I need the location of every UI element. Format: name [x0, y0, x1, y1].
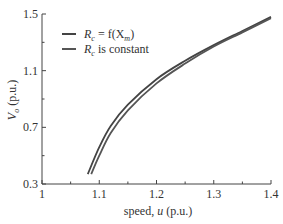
x-tick-label: 1 — [39, 187, 45, 201]
legend: Rc = f(Xm) Rc is constant — [62, 27, 150, 58]
line-chart: 11.11.21.31.40.30.71.11.5 Rc = f(Xm) Rc … — [0, 0, 283, 224]
y-tick-label: 0.7 — [23, 120, 38, 134]
y-axis-label: Vo (p.u.) — [5, 80, 21, 120]
y-tick-label: 1.5 — [23, 7, 38, 21]
x-tick-label: 1.2 — [149, 187, 164, 201]
y-tick-label: 1.1 — [23, 64, 38, 78]
x-tick-label: 1.1 — [92, 187, 107, 201]
y-tick-label: 0.3 — [23, 177, 38, 191]
x-tick-label: 1.4 — [264, 187, 279, 201]
x-tick-label: 1.3 — [206, 187, 221, 201]
axes: 11.11.21.31.40.30.71.11.5 — [23, 7, 279, 201]
legend-label-1: Rc = f(Xm) — [83, 27, 134, 43]
legend-label-2: Rc is constant — [83, 42, 150, 58]
x-axis-label: speed, u (p.u.) — [124, 204, 192, 218]
